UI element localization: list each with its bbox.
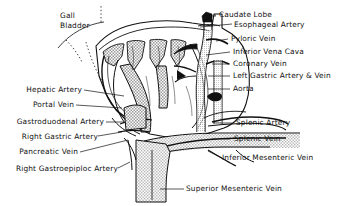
lobe-wedge-4 bbox=[171, 40, 186, 66]
leader-hepatic-artery bbox=[84, 90, 124, 96]
leader-portal-vein bbox=[76, 105, 122, 108]
label-inferior-mesenteric-vein: Inferior Mesenteric Vein bbox=[222, 153, 313, 162]
leader-right-gastric-artery bbox=[98, 132, 122, 136]
label-pyloric-vein: Pyloric Vein bbox=[231, 34, 275, 43]
lobe-wedge-3 bbox=[150, 39, 167, 68]
lobe-wedge-1 bbox=[103, 44, 124, 66]
label-hepatic-artery: Hepatic Artery bbox=[26, 85, 82, 94]
anatomy-figure: Gall Bladder Caudate Lobe Esophageal Art… bbox=[0, 0, 356, 206]
gallbladder-dotted-side bbox=[66, 40, 82, 62]
label-portal-vein: Portal Vein bbox=[33, 100, 74, 109]
superior-mesenteric-vein-vessel bbox=[136, 140, 170, 202]
label-caudate-lobe: Caudate Lobe bbox=[219, 10, 272, 19]
label-inferior-vena-cava: Inferior Vena Cava bbox=[233, 47, 304, 56]
label-superior-mesenteric-vein: Superior Mesenteric Vein bbox=[186, 184, 282, 193]
label-left-gastric-artery-vein: Left Gastric Artery & Vein bbox=[233, 71, 331, 80]
hepatic-vessel-branches bbox=[102, 39, 208, 134]
ivc-aorta-group bbox=[174, 12, 229, 132]
label-right-gastric-artery: Right Gastric Artery bbox=[22, 132, 98, 141]
gall-bladder-line2: Bladder bbox=[60, 21, 90, 30]
gastric-wedge bbox=[124, 105, 146, 130]
celiac-trunk-node bbox=[207, 92, 222, 101]
label-aorta: Aorta bbox=[233, 84, 254, 93]
label-splenic-vein: Splenic Vein bbox=[234, 134, 281, 143]
label-coronary-vein: Coronary Vein bbox=[233, 59, 287, 68]
caudate-lobe-node bbox=[202, 12, 212, 22]
right-gastroepiploic-vessel bbox=[128, 140, 132, 170]
label-splenic-artery: Splenic Artery bbox=[236, 118, 290, 127]
label-gastroduodenal-artery: Gastroduodenal Artery bbox=[17, 117, 104, 126]
ivc-lumen bbox=[196, 30, 212, 132]
leader-inferior-mesenteric-vein bbox=[208, 151, 222, 158]
leader-lines-left bbox=[76, 90, 130, 168]
gall-bladder-line1: Gall bbox=[60, 11, 75, 20]
label-esophageal-artery: Esophageal Artery bbox=[234, 20, 305, 29]
label-pancreatic-vein: Pancreatic Vein bbox=[19, 147, 78, 156]
leader-pancreatic-vein bbox=[80, 140, 128, 152]
label-right-gastroepiploic-artery: Right Gastroepiploc Artery bbox=[16, 164, 118, 173]
label-gall-bladder: Gall Bladder bbox=[60, 11, 106, 30]
leader-right-gastroepiploic-artery bbox=[118, 162, 130, 168]
aorta-lumen bbox=[214, 60, 222, 124]
hepatic-trunk-branch-b bbox=[156, 66, 168, 108]
